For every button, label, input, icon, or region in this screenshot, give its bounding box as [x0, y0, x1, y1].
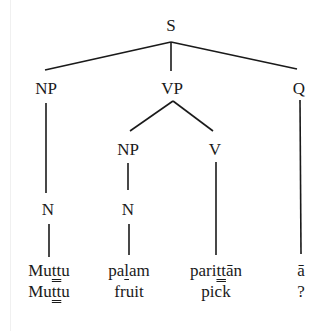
edge-vp-np	[130, 101, 173, 131]
word-muttu-pre: Mu	[28, 261, 52, 280]
node-v: V	[209, 141, 221, 158]
gloss-fruit: fruit	[114, 283, 143, 300]
word-a: ā	[297, 262, 305, 279]
gloss-muttu-pre: Mu	[28, 282, 52, 301]
gloss-pick: pick	[201, 283, 230, 300]
node-s: S	[166, 17, 175, 34]
edge-s-np	[45, 42, 171, 70]
word-parittan-retroflex: tt	[216, 261, 225, 280]
node-n-subject: N	[42, 201, 54, 218]
gloss-muttu-retroflex: tt	[52, 282, 61, 301]
edge-q-a	[300, 100, 301, 254]
node-np: NP	[35, 80, 57, 97]
word-muttu: Muttu	[28, 262, 70, 279]
word-parittan-post: ān	[226, 261, 242, 280]
gloss-question: ?	[297, 283, 305, 300]
word-palam-post: am	[129, 261, 150, 280]
word-palam-pre: pa	[108, 261, 124, 280]
gloss-muttu: Muttu	[28, 283, 70, 300]
node-q: Q	[293, 80, 305, 97]
edge-vp-v	[173, 101, 213, 131]
word-muttu-retroflex: tt	[52, 261, 61, 280]
node-vp: VP	[161, 80, 183, 97]
edge-s-q	[171, 42, 297, 69]
word-palam: palam	[108, 262, 150, 279]
gloss-muttu-post: u	[61, 282, 70, 301]
word-parittan: parittān	[190, 262, 242, 279]
word-muttu-post: u	[61, 261, 70, 280]
word-parittan-pre: pari	[190, 261, 216, 280]
node-np-object: NP	[117, 141, 139, 158]
node-n-object: N	[122, 201, 134, 218]
